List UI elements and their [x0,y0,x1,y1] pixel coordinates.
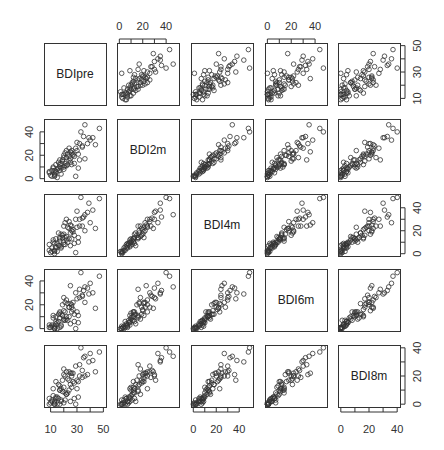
data-point [291,220,296,225]
data-point [68,283,73,288]
data-point [97,126,102,131]
data-point [145,310,150,315]
data-point [158,208,163,213]
data-point [232,141,237,146]
data-point [171,285,176,290]
data-point [81,134,86,139]
y-tick-label: 30 [411,66,423,78]
y-axis-BDIpre: 103050 [401,40,423,105]
data-point [307,123,312,128]
data-point [361,91,366,96]
data-point [300,201,305,206]
data-point [391,47,396,52]
data-point [246,47,251,52]
data-point [235,291,240,296]
data-point [156,281,161,286]
data-point [318,47,323,52]
data-point [371,142,376,147]
panel-BDI8m-vs-BDI6m [265,346,327,408]
data-point [234,378,239,383]
y-tick-label: 0 [411,251,423,257]
data-point [68,399,73,404]
y-axis-BDI2m: 02040 [23,126,44,182]
data-point [321,66,326,71]
data-point [77,374,82,379]
y-axis-BDI8m: 02040 [401,342,423,408]
data-point [230,123,235,128]
x-tick-label: 0 [338,423,344,435]
data-point [144,283,149,288]
data-point [152,210,157,215]
data-point [242,360,247,365]
data-point [381,201,386,206]
data-point [47,242,52,247]
data-point [93,142,98,147]
panel-BDIpre-vs-BDI2m [118,44,180,106]
x-tick-label: 0 [116,20,122,32]
data-point [285,51,290,56]
data-point [68,382,73,387]
data-point [282,148,287,153]
data-point [377,217,382,222]
data-point [354,94,359,99]
data-point [136,67,141,72]
data-point [358,76,363,81]
data-point [151,51,156,56]
data-point [234,140,239,145]
data-point [128,68,133,73]
data-point [167,47,172,52]
data-point [83,157,88,162]
panel-BDIpre-vs-BDI6m [265,44,327,106]
data-point [73,402,78,407]
y-tick-label: 40 [23,126,35,138]
data-point [310,351,315,356]
x-tick-label: 20 [285,20,297,32]
data-point [158,201,163,206]
data-point [97,196,102,201]
data-point [219,64,224,69]
y-tick-label: 0 [23,176,35,182]
data-point [321,130,326,135]
data-point [290,382,295,387]
data-point [382,208,387,213]
y-tick-label: 0 [23,326,35,332]
panel-BDI2m-vs-BDI6m [265,120,327,182]
data-point [159,63,164,68]
x-tick-label: 20 [363,423,375,435]
data-point [137,62,142,67]
y-tick-label: 10 [411,92,423,104]
data-point [73,326,78,331]
data-point [79,346,84,351]
data-point [148,364,153,369]
data-point [156,351,161,356]
y-tick-label: 50 [411,40,423,52]
data-point [152,286,157,291]
data-point [291,62,296,67]
y-tick-label: 20 [411,370,423,382]
panel-BDIpre-vs-BDIpre: BDIpre [45,44,107,106]
data-point [391,196,396,201]
data-point [164,346,169,351]
data-point [69,385,74,390]
data-point [391,274,396,279]
data-point [341,76,346,81]
x-axis-BDI4m: 02040 [190,408,245,435]
data-point [171,354,176,359]
data-point [164,270,169,275]
data-point [167,350,172,355]
y-axis-BDI4m: 02040 [401,202,423,257]
data-point [367,67,372,72]
x-axis-BDI6m: 02040 [264,20,321,43]
y-tick-label: 40 [23,275,35,287]
data-point [301,208,306,213]
data-point [304,158,309,163]
data-point [372,64,377,69]
scatterplot-matrix: BDIpreBDI2mBDI4mBDI6mBDI8m10305002040020… [0,0,444,450]
data-point [76,235,81,240]
data-point [138,295,143,300]
data-point [217,386,222,391]
data-point [358,301,363,306]
data-point [363,84,368,89]
x-tick-label: 20 [137,20,149,32]
data-point [73,291,78,296]
